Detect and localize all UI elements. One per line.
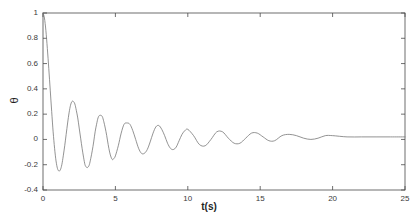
y-tick-label: 0.8 [27, 34, 38, 42]
x-axis-title: t(s) [0, 202, 418, 212]
y-tick-label: 1 [34, 9, 38, 17]
y-axis-title: θ [9, 93, 20, 109]
y-tick-label: -0.4 [24, 186, 38, 194]
y-tick-label: 0.6 [27, 60, 38, 68]
y-tick-label: -0.2 [24, 161, 38, 169]
y-tick-label: 0.4 [27, 85, 38, 93]
y-tick-label: 0 [34, 135, 38, 143]
chart-figure: 10.80.60.40.20-0.2-0.4 0510152025 θ t(s) [0, 0, 418, 224]
plot-canvas [0, 0, 418, 224]
y-tick-label: 0.2 [27, 110, 38, 118]
